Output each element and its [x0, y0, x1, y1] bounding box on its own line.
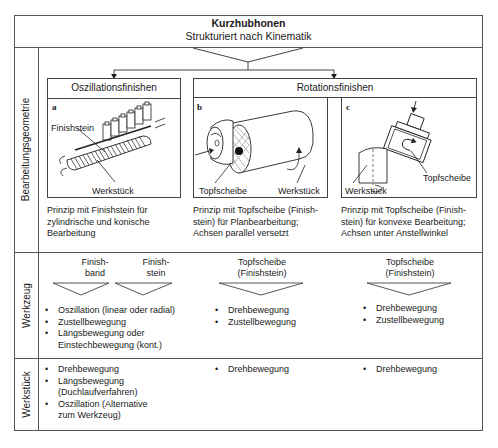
workpiece-motions-c: Drehbewegung — [362, 364, 482, 376]
tool-finishing-stone-line-1: Finish- — [136, 257, 176, 268]
tool-cup-wheel-c-line-1: Topfscheibe — [370, 257, 450, 268]
tool-motion-a-2: Zustellbewegung — [44, 317, 204, 329]
tool-cup-wheel-b: Topfscheibe (Finishstein) — [222, 257, 302, 279]
tool-motion-a-1: Oszillation (linear oder radial) — [44, 305, 204, 317]
row-label-tool: Werkzeug — [14, 252, 38, 358]
tool-motions-a: Oszillation (linear oder radial) Zustell… — [44, 305, 204, 351]
caption-b-line-3: Achsen parallel versetzt — [193, 228, 338, 240]
caption-c: Prinzip mit Topfscheibe (Finish- stein) … — [341, 205, 486, 240]
row-divider-workpiece — [14, 358, 483, 359]
workpiece-motions-a: Drehbewegung Längsbewegung (Duchlaufverf… — [44, 364, 204, 422]
tool-motions-b: Drehbewegung Zustellbewegung — [214, 305, 334, 328]
rotation-finishing-title: Rotationsfinishen — [193, 78, 477, 98]
tool-finishing-band: Finish- band — [75, 257, 115, 279]
tool-motion-a-3: Längsbewegung oder — [44, 328, 204, 340]
caption-c-line-3: Achsen unter Anstellwinkel — [341, 228, 486, 240]
label-cup-wheel-b: Topfscheibe — [199, 186, 247, 196]
honing-stone-illustration — [47, 98, 181, 198]
tool-motions-c: Drehbewegung Zustellbewegung — [362, 303, 482, 326]
workpiece-motion-a-3-cont: zum Werkzeug) — [44, 410, 204, 422]
caption-b-line-1: Prinzip mit Topfscheibe (Finish- — [193, 205, 338, 217]
tool-finishing-band-line-1: Finish- — [75, 257, 115, 268]
row-label-workpiece-text: Werkstück — [21, 371, 32, 418]
workpiece-motion-a-3: Oszillation (Alternative — [44, 399, 204, 411]
tool-motion-c-1: Drehbewegung — [362, 303, 482, 315]
tool-cup-wheel-b-line-2: (Finishstein) — [222, 268, 302, 279]
tool-finishing-stone: Finish- stein — [136, 257, 176, 279]
caption-a-line-2: zylindrische und konische — [47, 217, 187, 229]
caption-b: Prinzip mit Topfscheibe (Finish- stein) … — [193, 205, 338, 240]
workpiece-motion-b-1: Drehbewegung — [214, 364, 334, 376]
row-label-geometry-text: Bearbeitungsgeometrie — [21, 98, 32, 201]
workpiece-motion-a-1: Drehbewegung — [44, 364, 204, 376]
tool-motion-a-3-cont: Einstechbewegung (kont.) — [44, 340, 204, 352]
tool-motion-b-1: Drehbewegung — [214, 305, 334, 317]
row-label-workpiece: Werkstück — [14, 358, 38, 431]
label-cup-wheel-c: Topfscheibe — [423, 173, 471, 183]
label-workpiece-b: Werkstück — [278, 186, 320, 196]
workpiece-motion-a-2-cont: (Duchlaufverfahren) — [44, 387, 204, 399]
caption-a-line-3: Bearbeitung — [47, 228, 187, 240]
workpiece-motion-a-2: Längsbewegung — [44, 376, 204, 388]
label-finishing-stone: Finishstein — [51, 123, 94, 133]
caption-c-line-2: stein) für konvexe Bearbeitung; — [341, 217, 486, 229]
face-grinding-illustration — [193, 97, 328, 198]
caption-a: Prinzip mit Finishstein für zylindrische… — [47, 205, 187, 240]
workpiece-motions-b: Drehbewegung — [214, 364, 334, 376]
oscillation-finishing-title: Oszillationsfinishen — [47, 78, 181, 98]
tool-cup-wheel-c: Topfscheibe (Finishstein) — [370, 257, 450, 279]
caption-a-line-1: Prinzip mit Finishstein für — [47, 205, 187, 217]
row-divider-tool — [14, 252, 483, 253]
tool-cup-wheel-c-line-2: (Finishstein) — [370, 268, 450, 279]
tool-cup-wheel-b-line-1: Topfscheibe — [222, 257, 302, 268]
tool-motion-b-2: Zustellbewegung — [214, 317, 334, 329]
workpiece-motion-c-1: Drehbewegung — [362, 364, 482, 376]
tool-finishing-band-line-2: band — [75, 268, 115, 279]
caption-c-line-1: Prinzip mit Topfscheibe (Finish- — [341, 205, 486, 217]
label-column-divider — [38, 47, 39, 431]
tool-motion-c-2: Zustellbewegung — [362, 315, 482, 327]
label-workpiece-a: Werkstück — [92, 186, 134, 196]
tool-funnel-shapes — [0, 280, 498, 300]
label-workpiece-c: Werkstück — [345, 186, 387, 196]
tool-finishing-stone-line-2: stein — [136, 268, 176, 279]
caption-b-line-2: stein) für Planbearbeitung; — [193, 217, 338, 229]
